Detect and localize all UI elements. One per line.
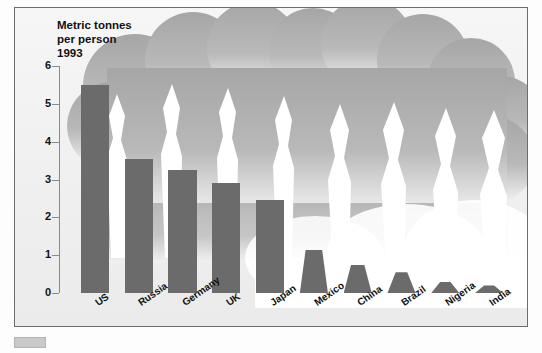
chart-title: Metric tonnes per person 1993 [57, 18, 132, 60]
chart-figure: Metric tonnes per person 1993 0123456 US… [0, 0, 542, 353]
y-axis-tick [52, 66, 59, 67]
y-axis-tick-label: 0 [33, 286, 51, 298]
legend-swatch [14, 337, 46, 348]
bar-us [81, 85, 109, 293]
y-axis-tick [52, 255, 59, 256]
y-axis-tick-label: 2 [33, 210, 51, 222]
bar-russia [125, 159, 153, 293]
plot-area: 0123456 USRussiaGermanyUKJapanMexicoChin… [59, 66, 511, 293]
chart-title-line-2: per person [57, 32, 132, 46]
chart-frame: Metric tonnes per person 1993 0123456 US… [14, 7, 528, 327]
bar-japan [256, 200, 284, 293]
y-axis-tick [52, 104, 59, 105]
chart-title-line-1: Metric tonnes [57, 18, 132, 32]
y-axis-tick-label: 3 [33, 173, 51, 185]
y-axis-tick-label: 4 [33, 135, 51, 147]
chart-title-line-3: 1993 [57, 46, 132, 60]
y-axis-tick [52, 142, 59, 143]
bar-germany [168, 170, 196, 293]
y-axis-tick [52, 180, 59, 181]
y-axis-line [59, 66, 60, 293]
y-axis-tick [52, 293, 59, 294]
y-axis-tick-label: 5 [33, 97, 51, 109]
bar-mexico [300, 250, 328, 294]
y-axis-tick-label: 6 [33, 59, 51, 71]
y-axis-tick [52, 217, 59, 218]
y-axis-tick-label: 1 [33, 248, 51, 260]
